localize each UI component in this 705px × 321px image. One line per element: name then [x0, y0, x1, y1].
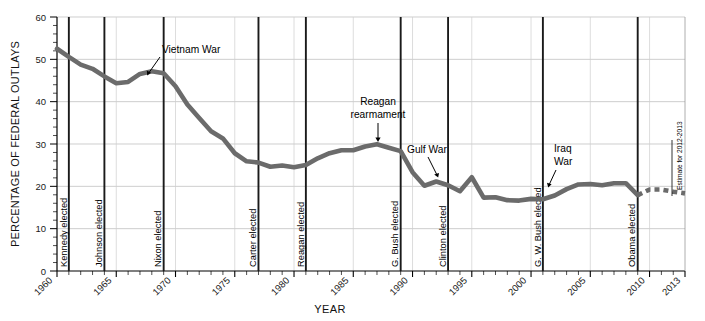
event-label-reagan-elected: Reagan elected: [296, 202, 306, 267]
y-axis-ticks: [50, 17, 57, 271]
x-axis-tick-labels: 1960 1965 1970 1975 1980 1985 1990 1995 …: [32, 275, 683, 298]
x-tick-label: 1965: [91, 275, 114, 298]
y-tick-label: 10: [35, 223, 46, 234]
annotation-vietnam-war: Vietnam War: [162, 44, 221, 55]
x-tick-label: 2005: [565, 275, 588, 298]
event-label-kennedy-elected: Kennedy elected: [59, 198, 69, 267]
annotation-reagan-rearmament-line1: Reagan: [360, 96, 396, 107]
annotation-gulf-war: Gulf War: [407, 144, 447, 155]
annotation-estimate-2012-2013: Estimate for 2012-2013: [676, 121, 683, 190]
x-tick-label: 1970: [150, 275, 173, 298]
event-label-johnson-elected: Johnson elected: [94, 199, 104, 267]
event-label-nixon-elected: Nixon elected: [153, 211, 163, 267]
x-tick-label: 1990: [387, 275, 410, 298]
x-tick-label: 2000: [506, 275, 529, 298]
y-tick-label: 20: [35, 181, 46, 192]
y-tick-label: 50: [35, 54, 46, 65]
chart-container: 60 50 40 30 20 10 0 PERCENTAGE OF FEDERA…: [0, 0, 705, 321]
y-axis-tick-labels: 60 50 40 30 20 10 0: [35, 12, 46, 277]
event-label-clinton-elected: Clinton elected: [438, 205, 448, 267]
y-tick-label: 60: [35, 12, 46, 23]
y-axis-title: PERCENTAGE OF FEDERAL OUTLAYS: [9, 41, 21, 247]
annotation-iraq-war-line1: Iraq: [554, 143, 572, 154]
y-tick-label: 30: [35, 139, 46, 150]
x-tick-label: 1960: [32, 275, 55, 298]
x-axis-title: YEAR: [314, 303, 346, 315]
x-axis-major-ticks: [57, 271, 685, 277]
x-tick-label: 1985: [328, 275, 351, 298]
line-chart: 60 50 40 30 20 10 0 PERCENTAGE OF FEDERA…: [0, 0, 705, 321]
event-label-g-bush-elected: G. Bush elected: [390, 201, 400, 267]
x-tick-label: 1995: [446, 275, 469, 298]
x-tick-label: 1980: [269, 275, 292, 298]
event-label-carter-elected: Carter elected: [248, 209, 258, 267]
x-tick-label: 1975: [209, 275, 232, 298]
annotation-reagan-rearmament-line2: rearmament: [351, 109, 406, 120]
x-tick-label: 2010: [624, 275, 647, 298]
event-label-obama-elected: Obama elected: [627, 204, 637, 267]
x-tick-label: 2013: [660, 275, 683, 298]
annotation-iraq-war-line2: War: [554, 156, 573, 167]
y-tick-label: 40: [35, 96, 46, 107]
